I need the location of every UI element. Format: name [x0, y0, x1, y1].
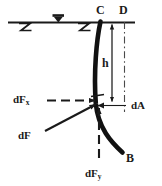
label-force-y: dFy	[85, 168, 102, 179]
label-force-x-subscript: x	[26, 98, 30, 107]
label-force-x: dFx	[13, 94, 30, 105]
water-level-triangle-icon	[53, 14, 65, 22]
label-point-c: C	[96, 4, 105, 16]
force-resultant-arrow	[45, 105, 96, 132]
surface-hatch-right-icon	[78, 24, 91, 31]
dA-element-tick-upper	[91, 95, 104, 97]
label-depth-h: h	[102, 57, 109, 69]
label-force-resultant: dF	[18, 130, 31, 141]
label-force-y-base: dF	[85, 167, 98, 179]
label-area-element-dA: dA	[131, 100, 145, 111]
label-point-b: B	[126, 152, 134, 164]
label-force-x-base: dF	[13, 93, 26, 105]
label-point-d: D	[119, 4, 128, 16]
curved-surface-CB	[95, 22, 122, 153]
hydrostatic-force-figure: C D B h dA dFx dF dFy	[0, 0, 162, 186]
surface-hatch-left-icon	[19, 24, 32, 31]
label-force-y-subscript: y	[98, 172, 102, 181]
